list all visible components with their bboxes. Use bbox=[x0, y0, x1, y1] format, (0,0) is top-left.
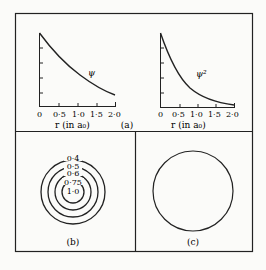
svg-text:1·5: 1·5 bbox=[90, 110, 103, 119]
svg-text:0·75: 0·75 bbox=[64, 178, 82, 187]
svg-text:1·0: 1·0 bbox=[72, 110, 85, 119]
psi-x-ticks: 0 0·5 1·0 1·5 2·0 bbox=[37, 110, 121, 119]
contour-labels: 0·4 0·5 0·6 0·75 1·0 bbox=[62, 154, 84, 196]
svg-text:1·0: 1·0 bbox=[67, 187, 80, 196]
svg-text:2·0: 2·0 bbox=[226, 110, 239, 119]
svg-text:0·6: 0·6 bbox=[67, 169, 80, 178]
panel-b-label: (b) bbox=[67, 237, 80, 247]
psi-plot bbox=[39, 33, 116, 107]
svg-text:0·5: 0·5 bbox=[172, 110, 185, 119]
boundary-circle bbox=[153, 151, 233, 231]
svg-text:0: 0 bbox=[158, 110, 163, 119]
psi-squared-x-ticks: 0 0·5 1·0 1·5 2·0 bbox=[158, 110, 239, 119]
svg-text:1·0: 1·0 bbox=[190, 110, 203, 119]
svg-text:0: 0 bbox=[37, 110, 42, 119]
svg-text:1·5: 1·5 bbox=[208, 110, 221, 119]
orbital-figure: ψ 0 0·5 1·0 1·5 2·0 r (in a₀) ψ² 0 0·5 1… bbox=[0, 0, 266, 270]
svg-text:2·0: 2·0 bbox=[108, 110, 121, 119]
panel-c-label: (c) bbox=[187, 237, 199, 247]
panel-a-label: (a) bbox=[121, 120, 133, 130]
psi-squared-curve-label: ψ² bbox=[196, 69, 207, 79]
psi-x-axis-label: r (in a₀) bbox=[55, 120, 90, 130]
psi-curve-label: ψ bbox=[88, 68, 96, 78]
psi-curve bbox=[40, 33, 116, 95]
svg-text:0·5: 0·5 bbox=[53, 110, 66, 119]
psi-squared-x-axis-label: r (in a₀) bbox=[171, 120, 206, 130]
